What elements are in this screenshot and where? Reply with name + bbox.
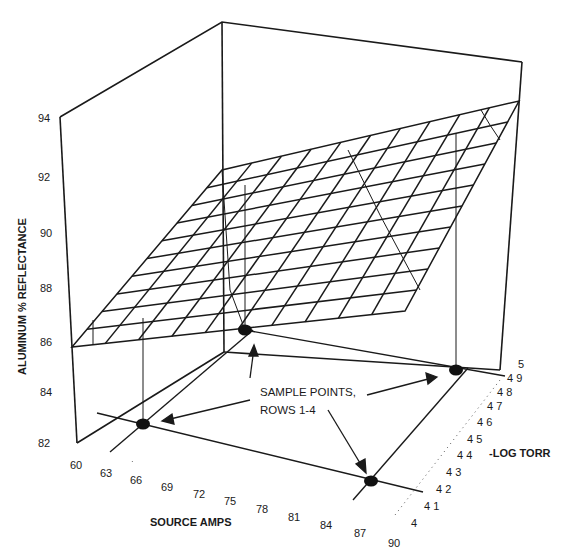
x-tick: 78: [256, 503, 268, 515]
x-tick: 72: [193, 488, 205, 500]
y-tick: 4 9: [507, 372, 522, 384]
x-axis-ticks: 60 63 66 69 72 75 78 81 84 87 90: [70, 459, 400, 549]
z-tick: 90: [40, 227, 52, 239]
z-tick: 94: [38, 112, 50, 124]
z-tick: 82: [38, 437, 50, 449]
y-tick: 4 8: [497, 386, 512, 398]
y-tick: 4: [411, 517, 417, 529]
x-tick: 90: [388, 537, 400, 549]
annotation-line-1: SAMPLE POINTS,: [260, 386, 356, 398]
y-tick: 4 6: [477, 416, 492, 428]
x-tick: 81: [288, 511, 300, 523]
annotation-line-2: ROWS 1-4: [260, 404, 316, 416]
x-tick: 75: [224, 495, 236, 507]
y-tick: 4 3: [446, 466, 461, 478]
y-tick: 4 2: [436, 483, 451, 495]
y-axis-title: -LOG TORR: [489, 447, 551, 459]
z-tick: 84: [40, 386, 52, 398]
surface-chart: SAMPLE POINTS, ROWS 1-4 82 84 86 88 90 9…: [0, 0, 580, 560]
box-frame: [60, 22, 522, 443]
sample-point-2: [238, 325, 252, 336]
sample-point-3: [449, 365, 463, 376]
x-tick: 69: [161, 481, 173, 493]
x-axis-title: SOURCE AMPS: [150, 516, 232, 528]
z-tick: 92: [38, 171, 50, 183]
sample-point-1: [136, 419, 150, 430]
x-tick: 66: [130, 474, 142, 486]
z-axis-title: ALUMINUM % REFLECTANCE: [16, 218, 28, 375]
x-tick: 63: [100, 467, 112, 479]
z-tick: 88: [40, 282, 52, 294]
sample-point-4: [364, 476, 378, 487]
y-tick: 4 7: [487, 400, 502, 412]
y-tick: 4 5: [467, 433, 482, 445]
z-axis-ticks: 82 84 86 88 90 92 94: [38, 112, 52, 449]
y-tick: 4 4: [457, 449, 472, 461]
x-tick: 87: [354, 527, 366, 539]
x-tick: 84: [320, 519, 332, 531]
x-tick: 60: [70, 459, 82, 471]
response-surface: [72, 101, 519, 347]
z-tick: 86: [40, 336, 52, 348]
y-tick: 4 1: [424, 500, 439, 512]
y-tick: 5: [518, 358, 524, 370]
